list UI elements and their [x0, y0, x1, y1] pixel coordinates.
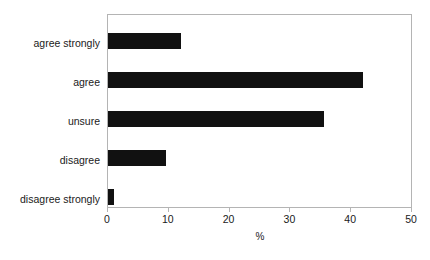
- x-tick-label: 20: [223, 213, 235, 225]
- category-label: unsure: [0, 116, 100, 127]
- category-label: disagree strongly: [0, 194, 100, 205]
- x-tick-mark: [350, 208, 351, 212]
- bar-unsure: [108, 111, 324, 127]
- bar-agree: [108, 72, 363, 88]
- category-label: disagree: [0, 155, 100, 166]
- x-tick-mark: [289, 208, 290, 212]
- bar-disagree-strongly: [108, 189, 114, 205]
- x-axis-title-text: %: [256, 231, 265, 242]
- x-tick-mark: [168, 208, 169, 212]
- x-tick-mark: [107, 208, 108, 212]
- bar-disagree: [108, 150, 166, 166]
- category-label: agree: [0, 77, 100, 88]
- x-tick-mark: [229, 208, 230, 212]
- bar-chart: agree strongly agree unsure disagree dis…: [0, 0, 430, 260]
- x-tick-label: 30: [284, 213, 296, 225]
- x-tick-label: 40: [344, 213, 356, 225]
- category-axis-labels: agree strongly agree unsure disagree dis…: [0, 14, 100, 208]
- category-label: agree strongly: [0, 38, 100, 49]
- x-tick-label: 10: [162, 213, 174, 225]
- x-tick-label: 0: [104, 213, 110, 225]
- x-tick-mark: [411, 208, 412, 212]
- x-tick-label: 50: [405, 213, 417, 225]
- bars-layer: [108, 15, 411, 207]
- x-axis-title: %: [0, 231, 430, 243]
- x-axis-ticks: 01020304050: [0, 208, 430, 228]
- bar-agree-strongly: [108, 33, 181, 49]
